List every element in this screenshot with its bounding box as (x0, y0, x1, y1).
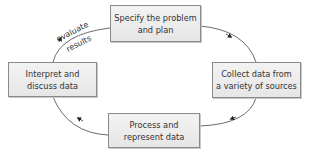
data-handling-cycle-diagram: evaluate results Specify the problem and… (0, 0, 310, 157)
arrow-collect-to-process (200, 98, 256, 126)
node-process-data: Process and represent data (108, 113, 200, 148)
arrow-process-to-interpret (53, 97, 108, 135)
node-collect-data: Collect data from a variety of sources (212, 62, 301, 98)
node-specify-problem: Specify the problem and plan (110, 5, 201, 42)
node-interpret-data: Interpret and discuss data (8, 62, 97, 97)
arrow-specify-to-collect (200, 26, 256, 62)
